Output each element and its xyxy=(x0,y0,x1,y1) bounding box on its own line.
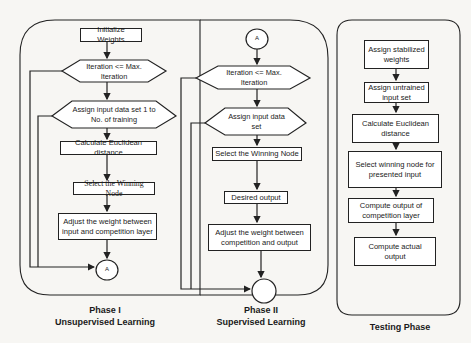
phase2-adjust-weight-node: Adjust the weight between competition an… xyxy=(208,224,311,251)
testing-assign-untrained-node: Assign untrained input set xyxy=(364,82,429,103)
phase2-caption: Phase II Supervised Learning xyxy=(196,304,326,328)
connector-a-in: A xyxy=(252,35,262,41)
phase1-caption: Phase I Unsupervised Learning xyxy=(40,304,170,328)
phase1-caption-subtitle: Unsupervised Learning xyxy=(40,316,170,328)
initialize-weights-node: Initialize Weights xyxy=(80,28,142,42)
phase1-assign-input-decision: Assign input data set 1 to No. of traini… xyxy=(72,102,156,128)
testing-euclidean-node: Calculate Euclidean distance xyxy=(352,114,439,143)
testing-assign-stabilized-node: Assign stabilized weights xyxy=(364,40,429,69)
phase1-euclidean-node: Calculate Euclidean distance xyxy=(60,141,157,155)
testing-competition-output-node: Compute output of competition layer xyxy=(348,198,434,223)
phase1-winning-node: Select the Winning Node xyxy=(73,182,155,195)
phase2-caption-title: Phase II xyxy=(196,304,326,316)
phase1-iteration-decision: Iteration <= Max. Iteration xyxy=(80,61,148,82)
testing-select-winning-node: Select winning node for presented input xyxy=(348,151,442,188)
phase2-iteration-decision: Iteration <= Max. Iteration xyxy=(218,67,290,89)
phase1-adjust-weight-node: Adjust the weight between input and comp… xyxy=(58,213,157,240)
phase2-winning-node: Select the Winning Node xyxy=(212,147,302,161)
phase2-assign-input-decision: Assign input data set xyxy=(225,109,288,135)
testing-actual-output-node: Compute actual output xyxy=(354,237,436,266)
phase1-caption-title: Phase I xyxy=(40,304,170,316)
testing-caption: Testing Phase xyxy=(345,321,455,333)
phase2-caption-subtitle: Supervised Learning xyxy=(196,316,326,328)
phase2-desired-output-node: Desired output xyxy=(224,191,288,204)
connector-a-out: A xyxy=(102,266,112,272)
